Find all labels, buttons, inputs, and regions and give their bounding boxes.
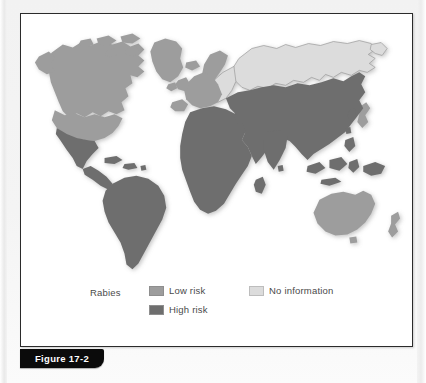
region-australia bbox=[314, 191, 376, 236]
region-sumatra bbox=[307, 162, 326, 174]
region-madagascar bbox=[254, 177, 266, 194]
figure-frame: Rabies Low risk High risk No information bbox=[20, 13, 413, 347]
legend-item-no-information[interactable]: No information bbox=[249, 285, 334, 296]
region-taiwan bbox=[345, 127, 351, 134]
legend-label-high-risk: High risk bbox=[169, 304, 208, 315]
region-philippines bbox=[344, 137, 355, 152]
region-kamchatka bbox=[370, 43, 387, 56]
region-arctic-island-1 bbox=[97, 36, 117, 46]
map-legend: Rabies Low risk High risk No information bbox=[21, 282, 412, 328]
region-new-zealand bbox=[388, 212, 400, 238]
region-tasmania bbox=[349, 237, 357, 244]
region-sri-lanka bbox=[278, 165, 284, 172]
world-map bbox=[21, 14, 412, 276]
region-iberia bbox=[170, 99, 188, 111]
legend-item-low-risk[interactable]: Low risk bbox=[149, 285, 205, 296]
region-lesser-antilles bbox=[140, 165, 146, 171]
legend-label-low-risk: Low risk bbox=[169, 285, 205, 296]
legend-swatch-no-information bbox=[249, 286, 264, 296]
region-ireland bbox=[166, 82, 177, 91]
legend-swatch-low-risk bbox=[149, 286, 164, 296]
figure-number-tab: Figure 17-2 bbox=[20, 349, 104, 368]
region-hispaniola bbox=[122, 163, 137, 170]
region-java bbox=[320, 178, 341, 186]
region-iceland bbox=[185, 60, 200, 70]
page-edge-right bbox=[417, 0, 426, 383]
legend-title: Rabies bbox=[90, 287, 121, 298]
legend-item-high-risk[interactable]: High risk bbox=[149, 304, 208, 315]
region-south-america bbox=[103, 176, 167, 270]
region-greenland bbox=[150, 39, 183, 83]
figure-number-label: Figure 17-2 bbox=[35, 353, 89, 364]
region-cuba bbox=[105, 156, 123, 164]
region-papua-new-guinea bbox=[363, 162, 385, 176]
legend-swatch-high-risk bbox=[149, 305, 164, 315]
legend-label-no-information: No information bbox=[269, 285, 334, 296]
region-arctic-island-2 bbox=[120, 34, 140, 44]
region-sulawesi bbox=[348, 159, 359, 173]
world-map-svg bbox=[21, 14, 412, 276]
region-borneo bbox=[329, 157, 347, 171]
page-edge-left bbox=[0, 0, 7, 383]
region-india bbox=[264, 130, 288, 170]
region-central-america bbox=[83, 166, 113, 190]
